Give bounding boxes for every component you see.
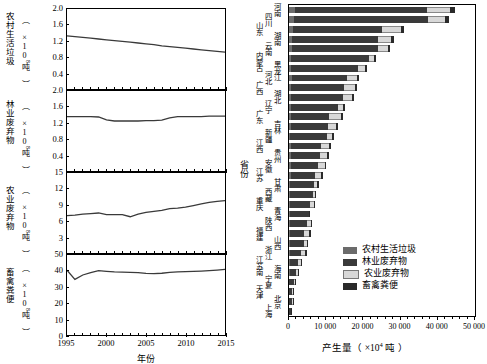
bar-row[interactable] [289, 152, 475, 159]
bar-segment [347, 75, 357, 82]
panel-3-xtick-mark [138, 333, 139, 335]
panel-0-xtick-mark [154, 87, 155, 89]
bar-xtick-mark [400, 317, 401, 320]
bar-row[interactable] [289, 211, 475, 218]
legend-item[interactable]: 农业废弃物 [343, 268, 416, 280]
bar-row[interactable] [289, 123, 475, 130]
bar-row[interactable] [289, 162, 475, 169]
panel-3-xtick-mark [122, 333, 123, 335]
bar-segment [291, 104, 338, 111]
bar-row[interactable] [289, 308, 475, 315]
panel-2-xtick-mark [226, 251, 227, 255]
bar-row[interactable] [289, 201, 475, 208]
panel-2-ytick-label: 15 [40, 167, 63, 177]
bar-xtick-mark [370, 317, 371, 319]
bar-row[interactable] [289, 298, 475, 305]
panel-1-yunit: （ ×108吨 ） [20, 102, 30, 174]
panel-2-yunit: （ ×108吨 ） [20, 186, 30, 258]
bar-row[interactable] [289, 143, 475, 150]
panel-1-yunit-tail: 吨 ） [20, 149, 29, 174]
legend-label: 畜禽粪便 [362, 279, 398, 292]
legend-item[interactable]: 农村生活垃圾 [343, 244, 416, 256]
panel-1-xtick-mark [74, 169, 75, 171]
panel-0-xtick-mark [138, 87, 139, 89]
panel-3-xtick-mark [162, 333, 163, 335]
panel-1-ytick-mark [66, 106, 69, 107]
panel-2-xtick-mark [130, 251, 131, 253]
bar-row[interactable] [289, 16, 475, 23]
bar-row[interactable] [289, 7, 475, 14]
bar-segment [445, 16, 449, 23]
panel-3-xtick-mark [146, 333, 147, 337]
bar-segment [290, 230, 304, 237]
panel-0-xtick-mark [90, 87, 91, 89]
panel-0-xtick-mark [202, 87, 203, 89]
panel-3-ytick-label: 40 [40, 265, 63, 275]
bar-xtick-mark [348, 317, 349, 319]
panel-1-xtick-mark [138, 169, 139, 171]
bar-segment [328, 123, 337, 130]
bar-row[interactable] [289, 75, 475, 82]
bar-row[interactable] [289, 36, 475, 43]
figure-root: 农村生活垃圾 （ ×108吨 ） 0.40.81.21.62.0 林业废弃物 （… [0, 0, 487, 364]
bar-row[interactable] [289, 65, 475, 72]
bar-xtick-mark [325, 317, 326, 320]
panel-2-xtick-mark [218, 251, 219, 253]
panel-0-xtick-mark [194, 87, 195, 89]
province-label: 辽宁 [264, 99, 271, 112]
bar-row[interactable] [289, 230, 475, 237]
panel-1-xtick-mark [218, 169, 219, 171]
panel-1-xtick-mark [194, 169, 195, 171]
legend-item[interactable]: 林业废弃物 [343, 256, 416, 268]
panel-2-yunit-tail: 吨 ） [20, 233, 29, 258]
bar-segment [315, 191, 316, 198]
bar-row[interactable] [289, 26, 475, 33]
panel-2-xtick-mark [162, 251, 163, 253]
panel-0-ytick-label: 0.8 [40, 52, 63, 62]
panel-0-xtick-mark [82, 87, 83, 89]
panel-2-ylabel: 农业废弃物 [4, 186, 13, 248]
province-label: 上海 [264, 303, 271, 316]
panel-3-xtick-mark [226, 333, 227, 337]
bar-row[interactable] [289, 191, 475, 198]
bar-row[interactable] [289, 113, 475, 120]
chart-legend: 农村生活垃圾林业废弃物农业废弃物畜禽粪便 [343, 244, 416, 292]
bar-xtick-mark [467, 317, 468, 319]
panel-3-xtick-mark [74, 333, 75, 335]
bar-segment [291, 152, 321, 159]
bar-row[interactable] [289, 94, 475, 101]
panel-2-ytick-mark [66, 172, 69, 173]
bar-row[interactable] [289, 55, 475, 62]
bar-row[interactable] [289, 220, 475, 227]
bar-row[interactable] [289, 133, 475, 140]
panel-1-xtick-mark [178, 169, 179, 171]
panel-1-ytick-mark [66, 123, 69, 124]
province-label: 湖北 [273, 89, 280, 102]
bar-xtick-mark [422, 317, 423, 319]
bar-segment [290, 191, 314, 198]
panel-3-ytick-label: 50 [40, 249, 63, 259]
panel-0-xtick-mark [226, 87, 227, 91]
legend-item[interactable]: 畜禽粪便 [343, 280, 416, 292]
bar-row[interactable] [289, 181, 475, 188]
bar-row[interactable] [289, 172, 475, 179]
bar-xtick-mark [474, 317, 475, 320]
bar-row[interactable] [289, 45, 475, 52]
bar-segment [320, 152, 327, 159]
bar-row[interactable] [289, 84, 475, 91]
legend-swatch [343, 283, 357, 290]
panel-0-ytick-mark [66, 24, 69, 25]
province-label: 山西 [273, 235, 280, 248]
panel-1-ytick-label: 0.8 [40, 134, 63, 144]
bar-row[interactable] [289, 104, 475, 111]
panel-1-xtick-mark [114, 169, 115, 171]
panel-1-xtick-mark [202, 169, 203, 171]
panel-1-ytick-mark [66, 156, 69, 157]
panel-1-xtick-mark [122, 169, 123, 171]
panel-2-svg [67, 173, 225, 253]
panel-0-xtick-mark [122, 87, 123, 89]
panel-0-xtick-mark [170, 87, 171, 89]
bar-segment [292, 45, 378, 52]
bar-xtick-mark [288, 317, 289, 320]
panel-2-xtick-mark [98, 251, 99, 253]
